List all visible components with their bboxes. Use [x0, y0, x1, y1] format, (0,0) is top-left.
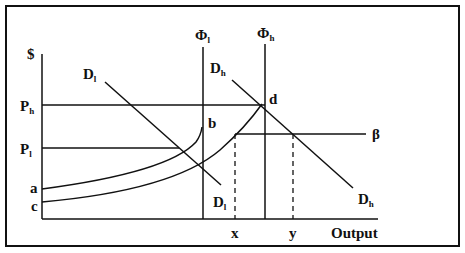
point-b-label: b [208, 115, 216, 131]
cost-curve-c [42, 104, 262, 202]
diagram: $ Ph Pl a c Φl Φh Dl Dh Dl Dh b d β x y … [0, 0, 465, 253]
phi-l-label: Φl [195, 27, 210, 45]
output-axis-label: Output [331, 225, 378, 241]
frame-border [6, 6, 459, 246]
pl-label: Pl [20, 141, 32, 159]
beta-label: β [372, 126, 380, 142]
cost-curve-a [42, 127, 202, 189]
dh-top-label: Dh [210, 60, 226, 78]
dl-top-label: Dl [83, 66, 97, 84]
x-marker-label: x [231, 225, 239, 241]
dollar-label: $ [27, 46, 35, 62]
a-label: a [30, 180, 38, 196]
dl-bottom-label: Dl [213, 194, 227, 212]
ph-label: Ph [20, 98, 34, 116]
point-d-label: d [269, 91, 278, 107]
phi-h-label: Φh [257, 25, 274, 43]
economics-diagram: $ Ph Pl a c Φl Φh Dl Dh Dl Dh b d β x y … [0, 0, 465, 253]
dh-bottom-label: Dh [358, 191, 374, 209]
y-marker-label: y [289, 225, 297, 241]
c-label: c [31, 198, 38, 214]
